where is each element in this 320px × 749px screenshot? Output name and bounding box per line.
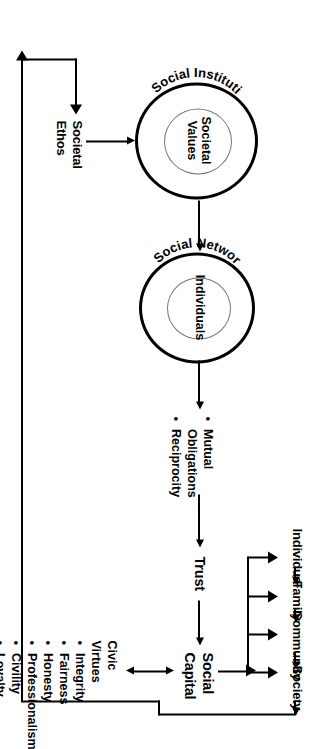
social-institutions-ring-label: Social Institutions	[148, 64, 270, 96]
bullet-icon: •	[40, 640, 56, 653]
networks-to-obligations-line	[198, 360, 200, 402]
individuals-label: Individuals	[169, 277, 231, 337]
obligations-to-trust-arrowhead	[196, 539, 204, 547]
obligations-item-0-line1: Mutual	[201, 429, 215, 469]
civic-virtue-item: •Integrity	[72, 640, 88, 749]
bullet-icon: •	[72, 640, 88, 653]
chain-arrowhead-community-society	[292, 661, 300, 669]
social-networks-ring-label: Social Networks	[151, 235, 267, 267]
societal-values-line1: Societal	[199, 116, 213, 164]
capital-virtues-arrowhead-up	[166, 666, 174, 674]
chain-arrowhead-individual-family	[292, 576, 300, 584]
civic-virtues-heading-line1: Civic	[104, 640, 120, 749]
social-institutions-node: Social Institutions Societal Values	[134, 82, 258, 200]
civic-virtue-item-4: Civility	[9, 653, 23, 694]
feedback-top-connector	[158, 700, 160, 715]
distribution-bar	[247, 556, 249, 672]
networks-to-obligations-arrowhead	[196, 401, 204, 409]
bullet-icon: •	[56, 640, 72, 653]
obligations-item-0-cont: Obligations	[184, 416, 200, 497]
distribution-arrowhead-community	[268, 628, 278, 640]
distribution-riser-individual	[248, 556, 270, 558]
bullet-icon: •	[168, 416, 184, 429]
chain-arrowhead-family-community	[292, 614, 300, 622]
civic-virtue-item-1: Fairness	[57, 653, 71, 704]
obligations-item-1: •Reciprocity	[168, 416, 184, 497]
trust-label: Trust	[192, 556, 208, 590]
trust-to-capital-line	[198, 600, 200, 638]
bullet-icon: •	[24, 640, 40, 653]
chain-item-society: Society	[289, 665, 304, 710]
civic-virtue-item: •Professionalism	[24, 640, 40, 749]
societal-values-label: Societal Values	[166, 108, 232, 172]
societal-ethos-label-line2: Ethos	[53, 120, 68, 155]
bullet-icon: •	[200, 416, 216, 429]
social-capital-label-line1: Social	[200, 652, 216, 694]
civic-virtues-block: Civic Virtues •Integrity •Fairness •Hone…	[0, 640, 120, 749]
bullet-icon: •	[0, 640, 8, 653]
civic-virtue-item: •Honesty	[40, 640, 56, 749]
feedback-into-ethos-segment	[75, 58, 77, 105]
obligations-item-1-line1: Reciprocity	[169, 429, 183, 497]
civic-virtue-item-3: Professionalism	[25, 653, 39, 749]
civic-virtues-heading-line2: Virtues	[88, 640, 104, 749]
distribution-riser-community	[248, 633, 270, 635]
civic-virtue-item-0: Integrity	[73, 653, 87, 702]
bullet-icon: •	[8, 640, 24, 653]
civic-virtue-item-2: Honesty	[41, 653, 55, 702]
societal-ethos-label-line1: Societal	[69, 120, 84, 168]
social-capital-label-line2: Capital	[182, 652, 198, 699]
trust-to-capital-arrowhead	[196, 637, 204, 645]
distribution-riser-society	[248, 671, 270, 673]
civic-virtue-item: •Civility	[8, 640, 24, 749]
civic-virtue-item: •Loyalty	[0, 640, 8, 749]
obligations-item-0: •Mutual	[200, 416, 216, 497]
societal-values-line2: Values	[185, 120, 199, 160]
feedback-arrowhead-into-ethos	[70, 104, 82, 114]
feedback-bottom-segment	[21, 58, 23, 701]
capital-virtues-arrowhead-down	[126, 666, 134, 674]
social-networks-node: Social Networks Individuals	[137, 252, 255, 364]
distribution-arrowhead-society	[268, 666, 278, 678]
capital-to-distribution-line	[218, 670, 248, 672]
ethos-to-institutions-line	[86, 140, 128, 142]
capital-virtues-line	[132, 670, 168, 672]
feedback-top-riser	[159, 713, 296, 715]
obligations-item-0-line2: Obligations	[185, 429, 199, 498]
distribution-arrowhead-individual	[268, 551, 278, 563]
obligations-list: •Mutual Obligations •Reciprocity	[168, 416, 216, 497]
feedback-left-riser	[21, 58, 77, 60]
obligations-to-trust-line	[198, 494, 200, 540]
civic-virtue-item-5: Loyalty	[0, 653, 7, 697]
individuals-text: Individuals	[193, 274, 207, 339]
distribution-riser-family	[248, 595, 270, 597]
distribution-arrowhead-family	[268, 590, 278, 602]
civic-virtue-item: •Fairness	[56, 640, 72, 749]
